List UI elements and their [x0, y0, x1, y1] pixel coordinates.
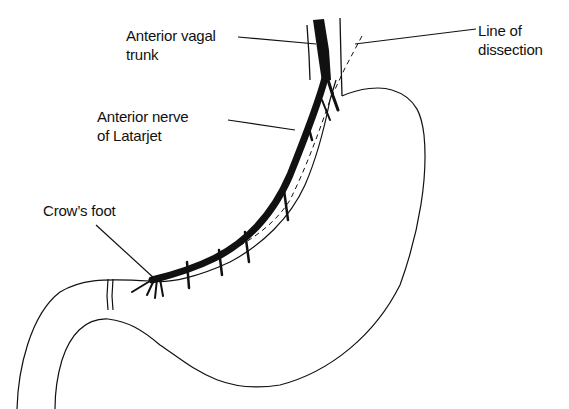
label-line: Anterior nerve [97, 107, 188, 126]
label-line: Crow’s foot [43, 201, 116, 220]
leader-lines [96, 29, 476, 279]
leader-anterior-vagal-trunk [238, 37, 316, 44]
dissection-line-dashed [160, 36, 362, 276]
label-line: Anterior vagal [126, 26, 216, 45]
leader-line-of-dissection [355, 29, 476, 44]
label-anterior-nerve-of-latarjet: Anterior nerve of Latarjet [97, 107, 188, 145]
label-line: of Latarjet [97, 126, 188, 145]
leader-crows-foot [96, 225, 155, 279]
leader-nerve-of-latarjet [228, 120, 295, 130]
label-crows-foot: Crow’s foot [43, 201, 116, 220]
label-line-of-dissection: Line of dissection [478, 21, 543, 59]
pylorus [107, 279, 113, 310]
label-line: dissection [478, 40, 543, 59]
label-anterior-vagal-trunk: Anterior vagal trunk [126, 26, 216, 64]
stomach-outline [17, 80, 425, 409]
label-line: Line of [478, 21, 543, 40]
label-line: trunk [126, 45, 216, 64]
anterior-vagal-trunk [313, 19, 331, 82]
